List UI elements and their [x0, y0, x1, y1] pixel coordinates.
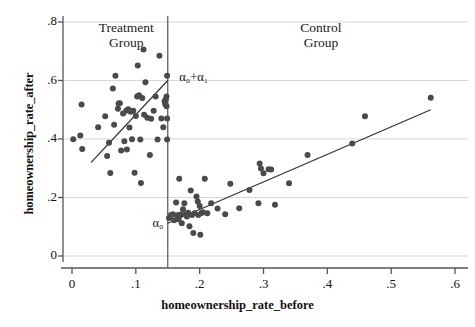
data-point — [215, 206, 221, 212]
data-point — [179, 220, 185, 226]
data-point — [272, 202, 278, 208]
data-point — [129, 136, 135, 142]
data-point — [132, 170, 138, 176]
data-point — [160, 124, 166, 130]
data-point — [158, 116, 164, 122]
data-point — [164, 137, 170, 143]
data-point — [208, 200, 214, 206]
y-tick-label: .8 — [31, 13, 57, 29]
data-point — [111, 122, 117, 128]
data-point — [349, 140, 355, 146]
x-tick-label: .1 — [123, 276, 149, 292]
data-point — [130, 108, 136, 114]
x-tick-label: .5 — [378, 276, 404, 292]
control-group-label: ControlGroup — [276, 20, 366, 50]
data-point — [176, 176, 182, 182]
data-point — [286, 180, 292, 186]
data-point — [186, 223, 192, 229]
data-point — [79, 101, 85, 107]
x-tick-label: .2 — [187, 276, 213, 292]
data-point — [197, 203, 203, 209]
data-point — [305, 152, 311, 158]
data-point — [106, 140, 112, 146]
data-point — [115, 106, 121, 112]
data-point — [126, 125, 132, 131]
data-point — [428, 95, 434, 101]
data-point — [121, 138, 127, 144]
data-point — [70, 136, 76, 142]
data-point — [181, 200, 187, 206]
treatment-group-label-line-2: Group — [81, 35, 171, 50]
data-point — [268, 166, 274, 172]
data-point — [255, 200, 261, 206]
data-point — [135, 63, 141, 69]
data-point — [164, 73, 170, 79]
data-point — [112, 73, 118, 79]
data-point — [204, 210, 210, 216]
data-point — [139, 95, 145, 101]
data-point — [142, 79, 148, 85]
x-axis-title: homeownership_rate_before — [0, 298, 475, 313]
data-point — [222, 211, 228, 217]
data-point — [104, 153, 110, 159]
data-point — [124, 147, 130, 153]
y-tick-label: .2 — [31, 189, 57, 205]
control-group-label-line-1: Control — [276, 20, 366, 35]
data-point — [236, 205, 242, 211]
data-point — [102, 113, 108, 119]
data-point — [77, 132, 83, 138]
treatment-group-label: TreatmentGroup — [81, 20, 171, 50]
data-point — [163, 94, 169, 100]
data-point — [178, 211, 184, 217]
y-tick-label: 0 — [31, 247, 57, 263]
control-fit-line — [168, 110, 431, 223]
data-point — [156, 53, 162, 59]
x-tick-label: 0 — [59, 276, 85, 292]
data-point — [151, 108, 157, 114]
treatment-group-label-line-1: Treatment — [81, 20, 171, 35]
data-point — [95, 124, 101, 130]
data-point — [79, 146, 85, 152]
alpha0-label: α₀ — [152, 216, 163, 231]
data-point — [110, 85, 116, 91]
data-point — [197, 232, 203, 238]
data-point — [173, 199, 179, 205]
y-tick-label: .4 — [31, 130, 57, 146]
data-point — [190, 230, 196, 236]
data-point — [138, 180, 144, 186]
data-point — [202, 176, 208, 182]
data-point — [246, 187, 252, 193]
data-point — [261, 170, 267, 176]
data-point — [163, 103, 169, 109]
data-point — [227, 181, 233, 187]
tick-marks — [58, 22, 455, 274]
x-tick-label: .4 — [314, 276, 340, 292]
x-tick-label: .3 — [251, 276, 277, 292]
data-point — [188, 187, 194, 193]
data-point — [107, 170, 113, 176]
data-point — [133, 113, 139, 119]
data-point — [153, 94, 159, 100]
treatment-points — [70, 46, 170, 185]
data-point — [164, 116, 170, 122]
data-point — [155, 137, 161, 143]
data-point — [180, 206, 186, 212]
control-group-label-line-2: Group — [276, 35, 366, 50]
data-point — [362, 113, 368, 119]
x-tick-label: .6 — [442, 276, 468, 292]
data-point — [148, 116, 154, 122]
alpha0-plus-alpha1-label: α₀+α₁ — [179, 70, 208, 85]
data-point — [147, 152, 153, 158]
data-point — [137, 137, 143, 143]
data-point — [117, 100, 123, 106]
y-tick-label: .6 — [31, 72, 57, 88]
data-point — [118, 147, 124, 153]
